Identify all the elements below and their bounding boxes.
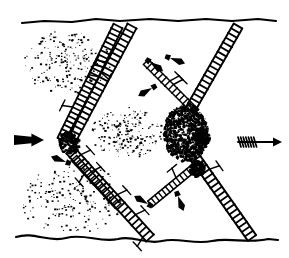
figure-canvas: Schematic line drawing of fibrous struct… (0, 0, 289, 258)
ink-drawing (0, 0, 289, 258)
